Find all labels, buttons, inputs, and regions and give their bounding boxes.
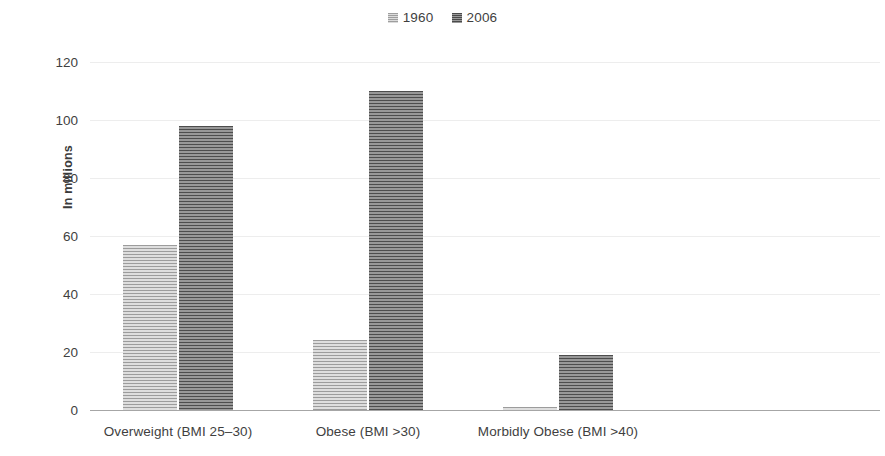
y-tick-label-0: 0: [32, 403, 78, 418]
bar-2006-group-2: [369, 91, 423, 410]
bar-2006-group-3: [559, 355, 613, 410]
gridline-120: [90, 62, 880, 63]
x-axis-line: [90, 410, 880, 411]
plot-area: 120 100 80 60 40 20 0 Overweight (BMI 25…: [0, 0, 885, 456]
y-tick-label-120: 120: [32, 55, 78, 70]
y-tick-label-60: 60: [32, 229, 78, 244]
category-label-3: Morbidly Obese (BMI >40): [408, 424, 708, 439]
gridline-100: [90, 120, 880, 121]
y-tick-label-20: 20: [32, 345, 78, 360]
y-tick-label-80: 80: [32, 171, 78, 186]
y-tick-label-40: 40: [32, 287, 78, 302]
bar-1960-group-1: [123, 245, 177, 410]
bar-1960-group-2: [313, 340, 367, 410]
y-tick-label-100: 100: [32, 113, 78, 128]
bar-2006-group-1: [179, 126, 233, 410]
bar-chart: 1960 2006 In millions 120 100 80 60 40: [0, 0, 885, 456]
